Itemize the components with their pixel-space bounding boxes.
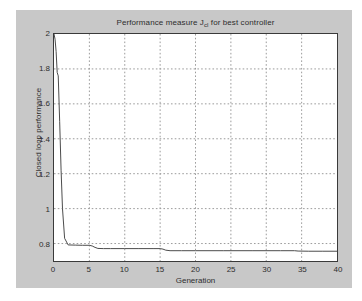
chart-title-subscript: cl (204, 22, 209, 28)
x-tick-label: 20 (191, 265, 200, 274)
grid-lines (54, 34, 337, 261)
chart-title-main: Performance measure J (116, 18, 203, 27)
y-tick-label: 0.8 (19, 240, 53, 249)
x-tick-label: 15 (155, 265, 164, 274)
x-tick-label: 5 (86, 265, 90, 274)
x-tick-label: 30 (262, 265, 271, 274)
chart-plot (54, 34, 337, 261)
x-tick-label: 25 (227, 265, 236, 274)
y-axis-label: Closed loop performance (34, 58, 43, 208)
chart-title: Performance measure Jcl for best control… (53, 18, 338, 27)
x-tick-label: 10 (120, 265, 129, 274)
x-tick-label: 40 (334, 265, 343, 274)
x-tick-label: 0 (51, 265, 55, 274)
chart-title-suffix: for best controller (208, 18, 274, 27)
plot-area (53, 33, 338, 262)
x-axis-label: Generation (53, 276, 338, 285)
figure-background: Performance measure Jcl for best control… (16, 10, 352, 288)
y-tick-label: 2 (19, 29, 53, 38)
x-tick-label: 35 (298, 265, 307, 274)
